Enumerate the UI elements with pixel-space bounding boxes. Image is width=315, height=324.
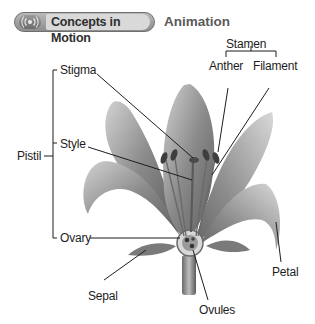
label-stigma: Stigma <box>60 64 96 77</box>
label-style: Style <box>60 138 86 151</box>
label-ovules: Ovules <box>199 304 235 317</box>
label-stamen: Stamen <box>226 38 266 51</box>
stem <box>182 255 196 295</box>
label-anther: Anther <box>209 60 243 73</box>
sepal-right <box>206 240 250 252</box>
label-ovary: Ovary <box>60 232 91 245</box>
label-filament: Filament <box>253 60 297 73</box>
sepal-left <box>128 243 176 256</box>
pistil-bracket <box>44 70 57 238</box>
label-petal: Petal <box>272 266 298 279</box>
flower-diagram <box>0 0 315 324</box>
label-sepal: Sepal <box>88 290 118 303</box>
label-pistil: Pistil <box>17 150 41 163</box>
